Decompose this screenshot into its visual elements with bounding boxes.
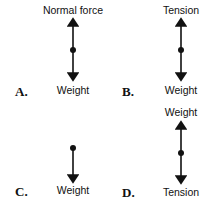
top-force-label: Weight bbox=[165, 106, 198, 118]
bottom-force-label: Weight bbox=[57, 184, 90, 196]
bottom-force-label: Tension bbox=[163, 186, 199, 198]
free-body-diagram-a: Normal force Weight A. bbox=[0, 0, 106, 102]
free-body-diagram-d: Weight Tension D. bbox=[106, 103, 212, 205]
top-force-label: Tension bbox=[163, 4, 199, 16]
option-letter: B. bbox=[122, 84, 134, 100]
option-letter: A. bbox=[15, 84, 28, 100]
option-letter: C. bbox=[15, 184, 28, 200]
top-force-label: Normal force bbox=[43, 4, 103, 16]
bottom-force-label: Weight bbox=[165, 84, 198, 96]
free-body-diagram-b: Tension Weight B. bbox=[106, 0, 212, 102]
bottom-force-label: Weight bbox=[57, 84, 90, 96]
free-body-diagram-c: Weight C. bbox=[0, 103, 106, 205]
option-letter: D. bbox=[122, 185, 135, 201]
